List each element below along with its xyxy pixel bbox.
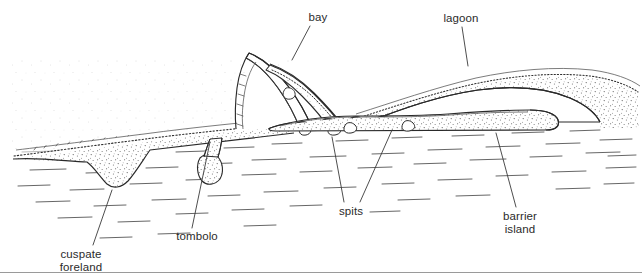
footer-divider [0, 272, 642, 273]
label-barrier-island-line1: barrier [503, 210, 537, 223]
label-cuspate-foreland-line1: cuspate [60, 248, 102, 261]
leader-bay [292, 26, 310, 60]
label-lagoon: lagoon [443, 12, 478, 25]
tombolo-landform [198, 138, 223, 184]
leader-tombolo [192, 142, 210, 228]
leader-cuspate-foreland [93, 190, 112, 245]
label-barrier-island: barrier island [503, 210, 537, 236]
label-spits: spits [339, 205, 363, 218]
leader-lagoon [462, 27, 468, 66]
label-cuspate-foreland: cuspate foreland [60, 248, 102, 274]
leader-spit-west [332, 137, 344, 202]
coastal-landforms-figure: bay lagoon spits cuspate foreland tombol… [0, 0, 642, 280]
label-barrier-island-line2: island [503, 223, 537, 236]
label-bay: bay [309, 11, 328, 24]
label-tombolo: tombolo [176, 230, 218, 243]
leader-spit-east [360, 130, 392, 202]
coastal-diagram-svg [0, 0, 642, 280]
leader-barrier-island [496, 133, 516, 207]
